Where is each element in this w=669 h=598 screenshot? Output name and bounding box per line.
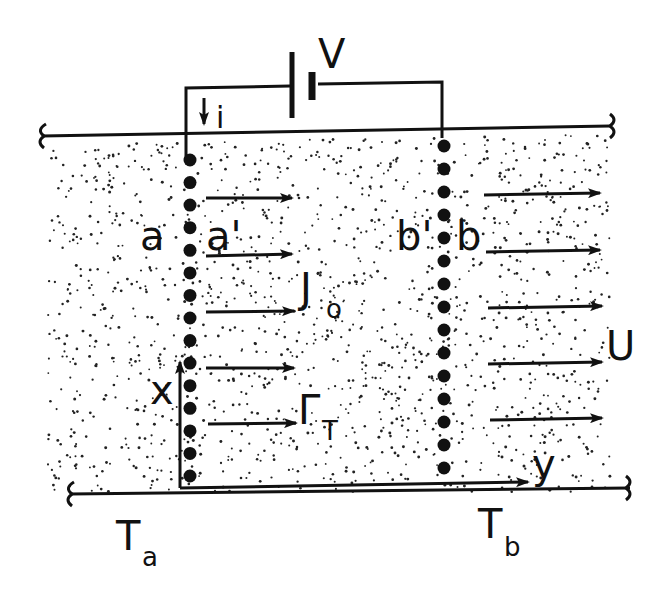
external-circuit bbox=[186, 52, 442, 160]
upper-wall bbox=[40, 114, 614, 148]
current-density-label: J bbox=[297, 265, 312, 311]
heat-flux-subscript: T bbox=[321, 416, 338, 446]
right-electrode bbox=[438, 140, 451, 475]
heat-flux-label: Γ bbox=[298, 387, 321, 433]
current-label: i bbox=[216, 100, 224, 135]
y-axis-arrow-icon bbox=[180, 482, 528, 488]
x-axis-label: x bbox=[150, 367, 174, 413]
y-axis-label: y bbox=[532, 441, 556, 487]
temperature-left-label: T bbox=[115, 513, 141, 559]
flow-velocity-arrows bbox=[484, 193, 602, 420]
electrode-label-b: b bbox=[456, 213, 481, 259]
temperature-right-subscript: b bbox=[504, 532, 521, 562]
temperature-right-label: T bbox=[477, 501, 503, 547]
left-electrode bbox=[184, 154, 197, 483]
electrode-label-a: a bbox=[140, 213, 165, 259]
flow-velocity-label: U bbox=[606, 323, 635, 369]
thermoelectric-channel-diagram: V i a a' b' b J o Γ T U x y T a T b bbox=[0, 0, 669, 598]
battery-voltage-label: V bbox=[318, 31, 346, 77]
current-density-subscript: o bbox=[326, 294, 342, 324]
temperature-left-subscript: a bbox=[142, 542, 158, 572]
electrode-label-b-prime: b' bbox=[396, 213, 432, 259]
electrode-label-a-prime: a' bbox=[206, 213, 242, 259]
